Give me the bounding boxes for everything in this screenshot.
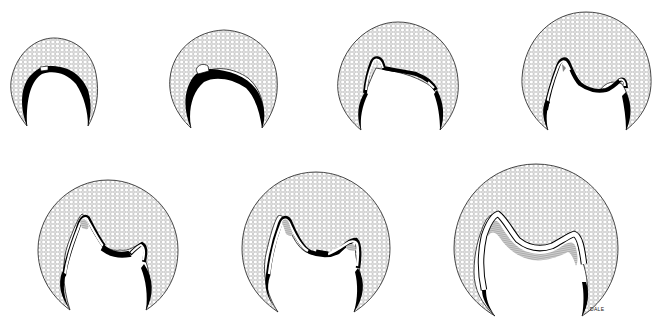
stage-3	[338, 22, 459, 130]
stage-6	[242, 172, 390, 312]
stage-1	[11, 38, 98, 126]
stage-4	[522, 12, 651, 130]
stage-5	[38, 180, 178, 310]
dental-organ	[242, 172, 390, 312]
stage-2	[170, 30, 278, 128]
dental-organ	[38, 180, 178, 310]
dental-organ	[522, 12, 651, 130]
tooth-development-diagram	[0, 0, 662, 322]
dentin-band-center	[316, 252, 328, 254]
artist-signature: DALE	[590, 306, 604, 312]
striated-layer	[562, 64, 566, 72]
stage-7	[454, 164, 618, 316]
enamel-knot	[40, 66, 48, 71]
dental-organ	[454, 164, 618, 316]
